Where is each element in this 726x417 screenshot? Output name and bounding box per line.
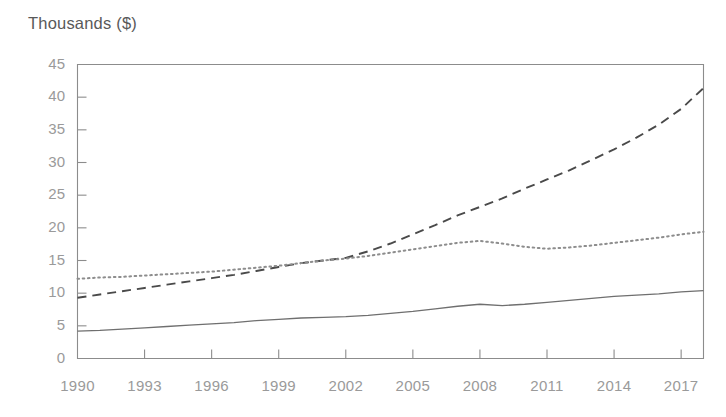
series-line-dotted [78,232,704,279]
x-axis-tick-label: 2014 [587,377,641,394]
y-axis-tick-label: 0 [30,349,66,366]
x-axis-tick-label: 2011 [520,377,574,394]
x-axis-tick-label: 1996 [185,377,239,394]
y-axis-tick-label: 45 [30,55,66,72]
y-axis-ticks [78,97,87,326]
series-line-solid [78,291,704,332]
x-axis-tick-label: 2002 [319,377,373,394]
y-axis-tick-label: 5 [30,316,66,333]
y-axis-tick-label: 20 [30,218,66,235]
x-axis-tick-label: 1993 [118,377,172,394]
x-axis-tick-label: 2005 [386,377,440,394]
x-axis-ticks [145,350,682,359]
y-axis-tick-label: 15 [30,251,66,268]
plot-frame [78,65,704,359]
x-axis-tick-label: 1990 [51,377,105,394]
series-line-dashed [78,88,704,298]
data-series-group [78,88,704,331]
y-axis-tick-label: 40 [30,87,66,104]
y-axis-tick-label: 30 [30,153,66,170]
chart-container: Thousands ($) 454035302520151050 1990199… [0,0,726,417]
y-axis-tick-label: 35 [30,120,66,137]
x-axis-tick-label: 1999 [252,377,306,394]
y-axis-tick-label: 10 [30,283,66,300]
x-axis-tick-label: 2008 [453,377,507,394]
y-axis-tick-label: 25 [30,185,66,202]
x-axis-tick-label: 2017 [654,377,708,394]
chart-plot-area [0,0,726,417]
